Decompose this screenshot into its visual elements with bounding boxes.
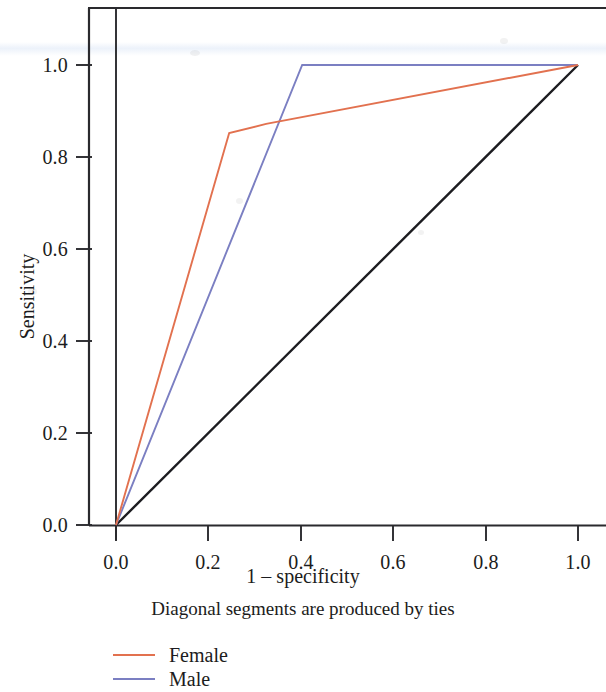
plot-subtitle-ties-note: Diagonal segments are produced by ties [0,598,606,620]
legend-swatch-male [113,678,155,680]
y-tick-label-0.2: 0.2 [10,422,68,445]
legend-label-female: Female [169,645,228,665]
y-tick-label-0.8: 0.8 [10,146,68,169]
y-tick-label-1.0: 1.0 [10,54,68,77]
plot-frame [88,8,606,525]
legend-item-female[interactable]: Female [113,643,413,667]
legend-swatch-female [113,654,155,656]
axis-lines [89,8,606,540]
legend: Female Male [113,643,413,691]
roc-curve-figure: 1.0 0.8 0.6 0.4 0.2 0.0 0.0 0.2 0.4 0.6 … [0,0,606,692]
x-axis-title: 1 – specificity [0,565,606,588]
reference-diagonal-line [116,65,578,525]
x-tick-marks [116,525,578,541]
legend-item-male[interactable]: Male [113,667,413,691]
y-tick-label-0.0: 0.0 [10,514,68,537]
data-curves [116,65,578,525]
y-axis-title: Sensitivity [16,237,39,357]
legend-label-male: Male [169,669,210,689]
plot-area [0,0,606,560]
